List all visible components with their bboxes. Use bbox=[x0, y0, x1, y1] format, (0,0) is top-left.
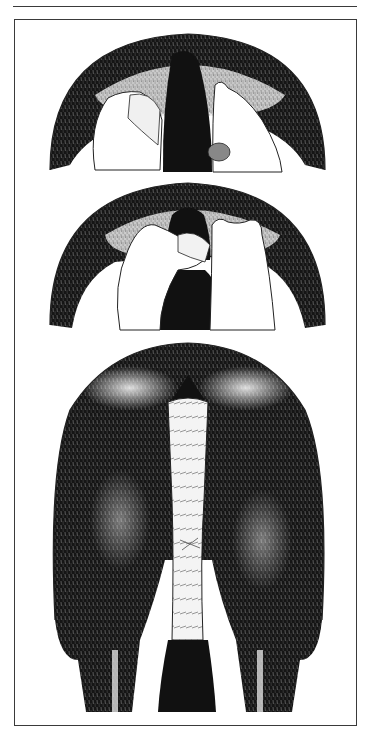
panel-step-1 bbox=[50, 34, 325, 172]
panel-step-2 bbox=[50, 183, 325, 330]
panel-step-3 bbox=[53, 343, 324, 712]
tail-brush bbox=[158, 640, 216, 712]
tail-bandage-illustration bbox=[0, 0, 378, 742]
tail-bandage bbox=[168, 398, 208, 640]
